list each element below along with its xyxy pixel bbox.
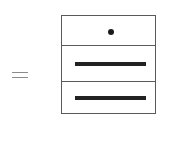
bar-icon [75,62,146,66]
equals-line-top [12,72,28,73]
bar-icon [75,96,146,100]
stack-cell-3 [62,82,155,113]
stack-box [61,15,156,114]
dot-icon [108,29,114,35]
stack-cell-1 [62,16,155,46]
stack-cell-2 [62,46,155,82]
equals-line-bottom [12,77,28,78]
